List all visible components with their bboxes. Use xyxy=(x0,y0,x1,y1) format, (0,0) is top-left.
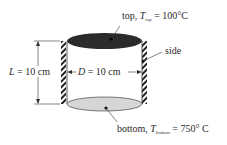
diameter-arrow-right-icon xyxy=(137,70,142,74)
bottom-surface xyxy=(67,97,142,111)
bottom-label: bottom, Tbottom = 750° C xyxy=(117,123,209,135)
cylinder-diagram: top, Ttop = 100°C side L = 10 cm D = 10 … xyxy=(0,0,227,145)
top-surface xyxy=(67,33,142,49)
length-arrow-down-icon xyxy=(36,99,40,104)
length-label: L = 10 cm xyxy=(8,66,50,77)
right-wall-insulation xyxy=(142,41,147,104)
top-label: top, Ttop = 100°C xyxy=(122,10,188,22)
left-wall-insulation xyxy=(61,41,66,104)
side-label: side xyxy=(165,45,182,56)
diameter-label: D = 10 cm xyxy=(77,66,121,77)
length-arrow-up-icon xyxy=(36,41,40,46)
